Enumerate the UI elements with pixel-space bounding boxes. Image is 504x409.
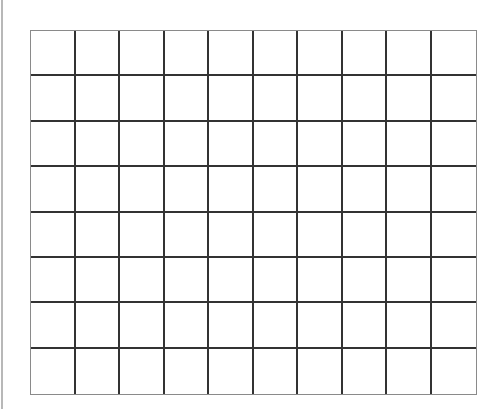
grid-cell[interactable] (254, 167, 299, 212)
grid-cell[interactable] (298, 303, 343, 348)
grid-cell[interactable] (31, 349, 76, 394)
grid-cell[interactable] (432, 349, 477, 394)
grid-cell[interactable] (298, 258, 343, 303)
grid-cell[interactable] (343, 31, 388, 76)
grid-cell[interactable] (120, 31, 165, 76)
grid-cell[interactable] (76, 76, 121, 121)
grid-cell[interactable] (432, 76, 477, 121)
grid-cell[interactable] (209, 167, 254, 212)
grid-cell[interactable] (31, 303, 76, 348)
grid-cell[interactable] (343, 167, 388, 212)
grid-cell[interactable] (31, 31, 76, 76)
grid-cell[interactable] (165, 31, 210, 76)
grid-cell[interactable] (343, 303, 388, 348)
grid-cell[interactable] (432, 213, 477, 258)
grid-cell[interactable] (165, 303, 210, 348)
grid-cell[interactable] (432, 258, 477, 303)
grid-cell[interactable] (387, 213, 432, 258)
grid-cell[interactable] (31, 213, 76, 258)
grid-cell[interactable] (165, 76, 210, 121)
grid-cell[interactable] (298, 213, 343, 258)
grid-cell[interactable] (165, 122, 210, 167)
grid-cell[interactable] (387, 122, 432, 167)
grid-cell[interactable] (209, 303, 254, 348)
grid-cell[interactable] (209, 122, 254, 167)
grid-cell[interactable] (254, 349, 299, 394)
grid-cell[interactable] (31, 258, 76, 303)
grid-cell[interactable] (165, 349, 210, 394)
grid-cell[interactable] (254, 76, 299, 121)
grid-cell[interactable] (343, 213, 388, 258)
grid-cell[interactable] (165, 167, 210, 212)
grid-cell[interactable] (76, 349, 121, 394)
grid-cell[interactable] (387, 258, 432, 303)
grid-cell[interactable] (165, 213, 210, 258)
panel-left-edge (1, 0, 3, 409)
grid-cell[interactable] (31, 122, 76, 167)
grid-cell[interactable] (343, 76, 388, 121)
grid-cell[interactable] (432, 31, 477, 76)
grid-cell[interactable] (387, 167, 432, 212)
grid-cell[interactable] (343, 258, 388, 303)
grid-cell[interactable] (387, 31, 432, 76)
grid-cell[interactable] (120, 167, 165, 212)
grid-cell[interactable] (343, 349, 388, 394)
grid-cell[interactable] (209, 76, 254, 121)
grid-cell[interactable] (120, 122, 165, 167)
grid-cell[interactable] (76, 213, 121, 258)
grid-cell[interactable] (209, 349, 254, 394)
grid-cell[interactable] (432, 303, 477, 348)
grid-cell[interactable] (76, 122, 121, 167)
grid-cell[interactable] (165, 258, 210, 303)
grid-cell[interactable] (31, 76, 76, 121)
grid-cell[interactable] (254, 213, 299, 258)
grid-cell[interactable] (254, 122, 299, 167)
grid-cell[interactable] (432, 167, 477, 212)
grid-cell[interactable] (343, 122, 388, 167)
grid-cell[interactable] (120, 213, 165, 258)
grid-cell[interactable] (298, 76, 343, 121)
grid-cell[interactable] (298, 122, 343, 167)
grid-cell[interactable] (209, 213, 254, 258)
grid-cell[interactable] (387, 76, 432, 121)
grid-cell[interactable] (254, 258, 299, 303)
grid-cell[interactable] (120, 258, 165, 303)
grid-cell[interactable] (432, 122, 477, 167)
grid-cell[interactable] (120, 349, 165, 394)
grid-cell[interactable] (76, 258, 121, 303)
grid-cell[interactable] (298, 31, 343, 76)
grid-cell[interactable] (254, 303, 299, 348)
grid-cell[interactable] (209, 31, 254, 76)
grid-cell[interactable] (76, 167, 121, 212)
grid-cell[interactable] (387, 349, 432, 394)
grid-cell[interactable] (254, 31, 299, 76)
grid-cell[interactable] (209, 258, 254, 303)
grid-cell[interactable] (387, 303, 432, 348)
grid-table (30, 30, 477, 395)
grid-cell[interactable] (298, 167, 343, 212)
grid-cell[interactable] (120, 303, 165, 348)
grid-cell[interactable] (76, 31, 121, 76)
grid-cell[interactable] (298, 349, 343, 394)
grid-cell[interactable] (76, 303, 121, 348)
grid-cell[interactable] (120, 76, 165, 121)
grid-cell[interactable] (31, 167, 76, 212)
